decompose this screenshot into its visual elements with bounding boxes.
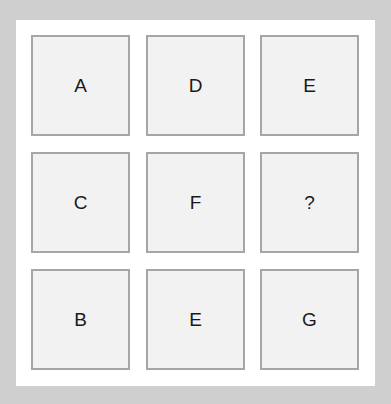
grid-cell-r1-c2: D [146, 35, 245, 136]
grid-cell-r2-c2: F [146, 152, 245, 253]
puzzle-panel: A D E C F ? B E G [16, 20, 375, 386]
grid-cell-r2-c1: C [31, 152, 130, 253]
missing-answer-cell[interactable]: ? [260, 152, 359, 253]
grid-cell-r3-c2: E [146, 269, 245, 370]
grid-cell-r3-c3: G [260, 269, 359, 370]
grid-cell-r1-c1: A [31, 35, 130, 136]
grid-cell-r3-c1: B [31, 269, 130, 370]
grid-cell-r1-c3: E [260, 35, 359, 136]
